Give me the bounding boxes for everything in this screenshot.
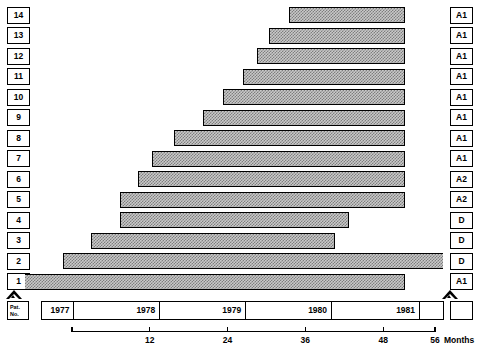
year-cell-1977: 1977 (41, 301, 75, 320)
outcome-code-box-3: D (450, 232, 473, 249)
outcome-code-box-7: A1 (450, 150, 473, 167)
timeline-bar-patient-1 (25, 274, 405, 290)
timeline-bar-patient-5 (120, 192, 405, 208)
start-marker-triangle-icon-core (11, 295, 15, 298)
month-tick-48 (383, 327, 384, 332)
month-tick-label-56: 56 (430, 336, 439, 345)
patient-number-box-13: 13 (7, 27, 30, 44)
outcome-code-box-11: A1 (450, 68, 473, 85)
outcome-code-box-13: A1 (450, 27, 473, 44)
patient-number-box-9: 9 (7, 109, 30, 126)
timeline-bar-patient-9 (203, 110, 405, 126)
pat-no-label-box: Pat.No. (7, 301, 29, 320)
outcome-code-box-1: A1 (450, 273, 473, 290)
patient-number-box-7: 7 (7, 150, 30, 167)
patient-number-box-6: 6 (7, 171, 30, 188)
patient-number-box-11: 11 (7, 68, 30, 85)
outcome-code-box-6: A2 (450, 171, 473, 188)
month-tick-24 (227, 327, 228, 332)
patient-number-box-12: 12 (7, 48, 30, 65)
outcome-code-box-4: D (450, 212, 473, 229)
month-tick-label-36: 36 (301, 336, 310, 345)
timeline-bar-patient-11 (243, 69, 404, 85)
timeline-bar-patient-12 (257, 48, 404, 64)
month-axis-cap-left (71, 327, 72, 332)
timeline-bar-patient-10 (223, 89, 405, 105)
year-cell-1978: 1978 (73, 301, 160, 320)
outcome-code-box-10: A1 (450, 89, 473, 106)
timeline-bar-patient-4 (120, 212, 349, 228)
timeline-bar-patient-8 (174, 130, 404, 146)
month-tick-12 (149, 327, 150, 332)
year-cell-1981: 1981 (331, 301, 420, 320)
timeline-bar-patient-14 (289, 7, 404, 23)
timeline-bar-patient-7 (152, 151, 405, 167)
patient-number-box-8: 8 (7, 130, 30, 147)
patient-number-box-14: 14 (7, 7, 30, 24)
outcome-code-box-9: A1 (450, 109, 473, 126)
year-cell-blank (419, 301, 445, 320)
outcome-code-box-5: A2 (450, 191, 473, 208)
month-tick-36 (305, 327, 306, 332)
outcome-code-box-14: A1 (450, 7, 473, 24)
pat-no-label-line2: No. (10, 311, 19, 317)
month-axis-line (72, 331, 435, 332)
patient-number-box-4: 4 (7, 212, 30, 229)
months-axis-unit-label: Months (444, 336, 474, 345)
outcome-code-box-12: A1 (450, 48, 473, 65)
end-marker-triangle-icon-core (447, 295, 451, 298)
patient-number-box-2: 2 (7, 253, 30, 270)
month-tick-label-12: 12 (145, 336, 154, 345)
month-tick-label-48: 48 (378, 336, 387, 345)
timeline-bar-patient-13 (269, 28, 404, 44)
outcome-code-box-8: A1 (450, 130, 473, 147)
gantt-chart: 14A113A112A111A110A19A18A17A16A25A24D3D2… (0, 0, 479, 349)
patient-number-box-10: 10 (7, 89, 30, 106)
year-cell-1979: 1979 (159, 301, 246, 320)
patient-number-box-3: 3 (7, 232, 30, 249)
year-strip-side-box (450, 301, 473, 320)
outcome-code-box-2: D (450, 253, 473, 270)
month-tick-label-24: 24 (223, 336, 232, 345)
timeline-bar-patient-2 (63, 253, 443, 269)
timeline-bar-patient-6 (138, 171, 404, 187)
patient-number-box-5: 5 (7, 191, 30, 208)
timeline-bar-patient-3 (91, 233, 335, 249)
month-axis-cap-right (434, 327, 435, 332)
year-cell-1980: 1980 (245, 301, 332, 320)
